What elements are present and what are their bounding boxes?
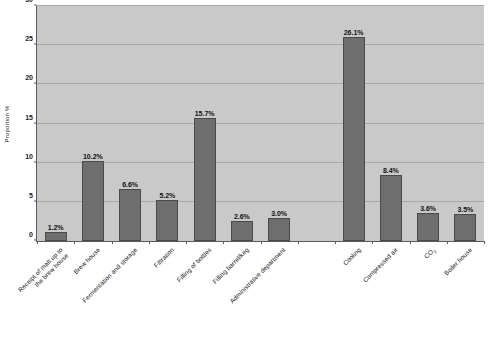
bar: 15.7%: [194, 118, 216, 241]
y-tick-label: 5: [29, 191, 33, 198]
gridline: [37, 5, 484, 6]
x-tick-mark: [112, 241, 113, 244]
y-tick-label: 10: [25, 152, 33, 159]
bar: 5.2%: [156, 200, 178, 241]
y-tick-label: 25: [25, 35, 33, 42]
x-category-label[interactable]: Cooling: [341, 246, 362, 267]
gridline: [37, 201, 484, 202]
x-category-label[interactable]: Filtration: [153, 246, 176, 269]
y-tick-mark: [34, 161, 37, 162]
bar: 3.6%: [417, 213, 439, 241]
y-tick-label: 20: [25, 74, 33, 81]
x-tick-mark: [261, 241, 262, 244]
bar-chart: Proportion % 051015202530 1.2%10.2%6.6%5…: [0, 0, 489, 338]
x-category-label[interactable]: Receipt of malt up to the brew house: [16, 246, 69, 299]
x-category-label[interactable]: Brew house: [72, 246, 102, 276]
x-tick-mark: [74, 241, 75, 244]
x-tick-mark: [372, 241, 373, 244]
x-tick-mark: [186, 241, 187, 244]
bar-value-label: 15.7%: [195, 110, 215, 117]
gridline: [37, 162, 484, 163]
bar-value-label: 6.6%: [122, 181, 138, 188]
y-tick-mark: [34, 44, 37, 45]
bar-value-label: 1.2%: [48, 224, 64, 231]
bar-value-label: 3.5%: [457, 206, 473, 213]
x-tick-mark: [223, 241, 224, 244]
plot-area: 051015202530 1.2%10.2%6.6%5.2%15.7%2.6%3…: [36, 6, 484, 242]
bar: 3.0%: [268, 218, 290, 242]
bar: 8.4%: [380, 175, 402, 241]
bar-value-label: 10.2%: [83, 153, 103, 160]
y-tick-label: 15: [25, 113, 33, 120]
x-category-label[interactable]: Filling of bottles: [175, 246, 213, 284]
x-tick-mark: [335, 241, 336, 244]
bar-value-label: 3.0%: [271, 210, 287, 217]
x-tick-mark: [484, 241, 485, 244]
x-category-label[interactable]: CO2: [422, 246, 438, 262]
bar-value-label: 26.1%: [344, 29, 364, 36]
y-tick-mark: [34, 122, 37, 123]
gridline: [37, 123, 484, 124]
y-tick-label: 30: [25, 0, 33, 3]
y-tick-label: 0: [29, 231, 33, 238]
gridline: [37, 44, 484, 45]
x-category-label[interactable]: Filling barrel/keg: [211, 246, 250, 285]
bar-value-label: 8.4%: [383, 167, 399, 174]
x-category-label[interactable]: Boiler house: [443, 246, 474, 277]
bar: 1.2%: [45, 232, 67, 241]
x-tick-mark: [410, 241, 411, 244]
y-axis-title-text: Proportion %: [4, 105, 10, 142]
bar: 6.6%: [119, 189, 141, 241]
bar: 10.2%: [82, 161, 104, 241]
x-tick-mark: [298, 241, 299, 244]
y-axis-title: Proportion %: [0, 84, 14, 164]
bar: 26.1%: [343, 37, 365, 241]
co2-subscript: 2: [432, 249, 437, 254]
y-tick-mark: [34, 5, 37, 6]
x-tick-mark: [37, 241, 38, 244]
x-category-label[interactable]: Compressed air: [361, 246, 399, 284]
bar: 3.5%: [454, 214, 476, 241]
x-tick-mark: [149, 241, 150, 244]
bar: 2.6%: [231, 221, 253, 241]
y-tick-mark: [34, 83, 37, 84]
gridline: [37, 83, 484, 84]
bar-value-label: 5.2%: [159, 192, 175, 199]
bar-value-label: 2.6%: [234, 213, 250, 220]
y-tick-mark: [34, 200, 37, 201]
x-tick-mark: [447, 241, 448, 244]
bar-value-label: 3.6%: [420, 205, 436, 212]
